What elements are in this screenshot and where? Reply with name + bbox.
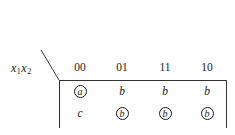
state-value: c bbox=[77, 107, 82, 119]
circled-state: b bbox=[116, 107, 129, 120]
column-header: 10 bbox=[192, 61, 222, 73]
table-top-border bbox=[59, 80, 227, 81]
table-cell: b bbox=[150, 107, 180, 120]
state-value: b bbox=[162, 85, 168, 97]
state-value: b bbox=[119, 85, 125, 97]
table-cell: a bbox=[65, 85, 95, 98]
table-cell: b bbox=[192, 85, 222, 97]
input-variables-label: x1x2 bbox=[11, 61, 32, 76]
table-cell: b bbox=[150, 85, 180, 97]
table-left-border bbox=[59, 80, 60, 128]
column-header: 01 bbox=[107, 61, 137, 73]
state-value: b bbox=[204, 85, 210, 97]
circled-state: b bbox=[159, 107, 172, 120]
table-right-border bbox=[226, 80, 227, 128]
column-header: 00 bbox=[65, 61, 95, 73]
subscript-2: 2 bbox=[27, 67, 32, 76]
table-cell: b bbox=[192, 107, 222, 120]
table-cell: c bbox=[65, 107, 95, 119]
circled-state: a bbox=[74, 85, 87, 98]
table-cell: b bbox=[107, 107, 137, 120]
diagonal-line bbox=[41, 50, 59, 80]
table-cell: b bbox=[107, 85, 137, 97]
circled-state: b bbox=[201, 107, 214, 120]
column-header: 11 bbox=[150, 61, 180, 73]
